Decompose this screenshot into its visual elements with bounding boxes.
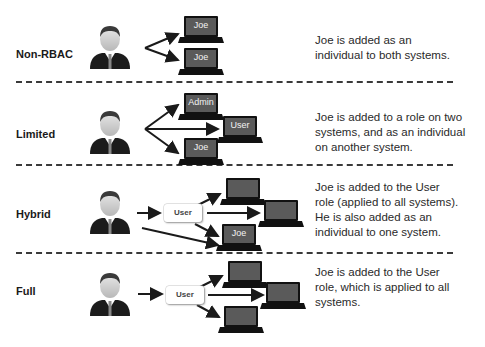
person-icon	[90, 111, 130, 154]
laptop-label: Joe	[183, 142, 219, 152]
diagram-artwork	[0, 0, 485, 347]
arrow-icon	[198, 194, 220, 205]
role-box-user: User	[166, 286, 204, 304]
arrow-icon	[197, 305, 219, 317]
laptop-icon	[218, 306, 264, 333]
person-icon	[90, 26, 130, 69]
arrow-icon	[195, 224, 218, 236]
laptop-icon	[220, 178, 266, 205]
laptop-label: Admin	[183, 97, 219, 107]
person-icon	[90, 191, 130, 234]
person-icon	[90, 273, 130, 316]
laptop-label: User	[222, 120, 258, 130]
role-box-user: User	[164, 204, 202, 222]
laptop-icon	[258, 200, 304, 227]
laptop-icon	[222, 261, 268, 288]
arrow-icon	[145, 105, 178, 129]
arrow-icon	[200, 276, 222, 287]
arrow-icon	[145, 129, 178, 153]
laptop-icon	[260, 282, 306, 309]
laptop-label: Joe	[183, 52, 219, 62]
laptop-label: Joe	[183, 20, 219, 30]
arrow-icon	[145, 48, 178, 60]
laptop-label: Joe	[221, 228, 257, 238]
arrow-icon	[145, 34, 178, 48]
